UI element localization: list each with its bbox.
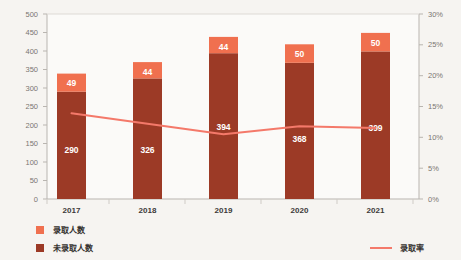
legend-item-rate[interactable]: 录取率 <box>370 242 424 253</box>
legend-label-rate: 录取率 <box>400 242 424 253</box>
bar-value-not-accepted: 368 <box>292 134 306 144</box>
legend-item-not-accepted[interactable]: 未录取人数 <box>36 242 93 253</box>
bar-value-accepted: 50 <box>371 38 381 48</box>
right-tick-label: 0% <box>428 195 439 204</box>
legend-swatch-not-accepted-icon <box>36 244 44 252</box>
right-tick-label: 15% <box>428 102 443 111</box>
left-tick-label: 300 <box>25 84 38 93</box>
left-tick-label: 200 <box>25 121 38 130</box>
chart-canvas: 0 50 100 150 200 250 300 350 400 450 500 <box>0 0 461 260</box>
right-axis-ticks: 0% 5% 10% 15% 20% 25% 30% <box>419 10 443 204</box>
bar-value-not-accepted: 326 <box>140 145 154 155</box>
bar-group-2017[interactable]: 49 290 <box>57 74 86 199</box>
left-tick-label: 250 <box>25 102 38 111</box>
left-axis-ticks: 0 50 100 150 200 250 300 350 400 450 500 <box>25 10 47 204</box>
legend-item-accepted[interactable]: 录取人数 <box>36 224 85 235</box>
bar-segment-not-accepted[interactable] <box>285 63 314 199</box>
category-label-2018: 2018 <box>139 206 157 215</box>
left-tick-label: 350 <box>25 65 38 74</box>
left-tick-label: 150 <box>25 139 38 148</box>
bar-group-2019[interactable]: 44 394 <box>209 37 238 199</box>
legend-swatch-accepted-icon <box>36 226 44 234</box>
bar-value-accepted: 50 <box>295 49 305 59</box>
admission-stacked-bar-chart: 0 50 100 150 200 250 300 350 400 450 500 <box>0 0 461 260</box>
right-tick-label: 5% <box>428 164 439 173</box>
right-tick-label: 10% <box>428 133 443 142</box>
left-tick-label: 50 <box>30 176 38 185</box>
bar-value-not-accepted: 290 <box>64 145 78 155</box>
category-label-2019: 2019 <box>215 206 233 215</box>
legend-line-rate-icon <box>370 247 392 249</box>
category-separator-ticks <box>47 199 413 204</box>
bar-value-accepted: 44 <box>219 42 229 52</box>
category-label-2020: 2020 <box>291 206 309 215</box>
bar-value-not-accepted: 394 <box>216 122 230 132</box>
left-tick-label: 400 <box>25 47 38 56</box>
bar-group-2018[interactable]: 44 326 <box>133 62 162 199</box>
legend-label-not-accepted: 未录取人数 <box>53 242 93 253</box>
bar-value-accepted: 49 <box>67 78 77 88</box>
bar-segment-not-accepted[interactable] <box>133 78 162 199</box>
legend-label-accepted: 录取人数 <box>53 224 85 235</box>
category-label-2017: 2017 <box>63 206 81 215</box>
left-tick-label: 500 <box>25 10 38 19</box>
right-tick-label: 25% <box>428 40 443 49</box>
bar-value-accepted: 44 <box>143 67 153 77</box>
bar-group-2021[interactable]: 50 399 <box>361 33 390 199</box>
right-tick-label: 20% <box>428 71 443 80</box>
right-tick-label: 30% <box>428 10 443 19</box>
left-tick-label: 0 <box>34 195 38 204</box>
category-label-2021: 2021 <box>367 206 385 215</box>
left-tick-label: 450 <box>25 28 38 37</box>
left-tick-label: 100 <box>25 158 38 167</box>
bar-group-2020[interactable]: 50 368 <box>285 44 314 199</box>
